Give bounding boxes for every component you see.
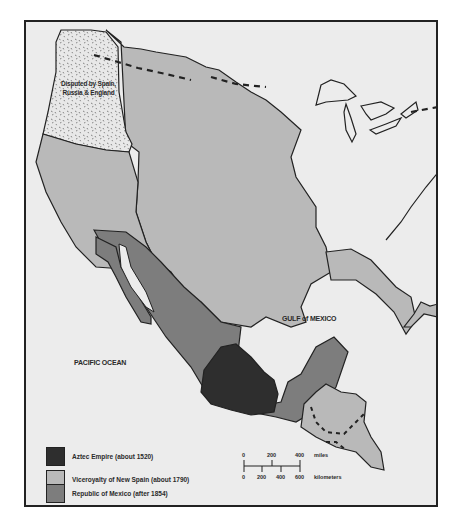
scale-km-600: 600 [295, 474, 304, 480]
scale-miles-unit: miles [314, 452, 328, 458]
legend-item-aztec: Aztec Empire (about 1520) [46, 447, 153, 466]
legend-item-mexico: Republic of Mexico (after 1854) [46, 484, 168, 503]
disputed-label-line1: Disputed by Spain, [61, 79, 116, 88]
legend-label-new-spain: Viceroyalty of New Spain (about 1790) [72, 476, 189, 483]
legend-label-aztec: Aztec Empire (about 1520) [72, 453, 153, 460]
lake-huron [361, 102, 394, 120]
scale-km-200: 200 [257, 474, 266, 480]
historical-map: Disputed by Spain, Russia & England GULF… [24, 20, 438, 507]
lake-superior [316, 80, 356, 105]
scale-km-unit: kilometers [314, 474, 342, 480]
pacific-ocean-label: PACIFIC OCEAN [74, 359, 126, 366]
gulf-of-mexico-label: GULF of MEXICO [282, 315, 336, 322]
scale-km-0: 0 [242, 474, 245, 480]
lake-ontario [401, 102, 418, 118]
disputed-label: Disputed by Spain, Russia & England [61, 79, 116, 97]
florida [326, 249, 416, 334]
scale-miles-400: 400 [295, 452, 304, 458]
scale-bar [244, 460, 300, 472]
scale-miles-200: 200 [267, 452, 276, 458]
lake-michigan [344, 104, 356, 142]
legend-swatch-aztec [46, 447, 65, 466]
lake-erie [370, 118, 401, 134]
disputed-label-line2: Russia & England [61, 88, 116, 97]
legend-swatch-mexico [46, 484, 65, 503]
legend-label-mexico: Republic of Mexico (after 1854) [72, 490, 168, 497]
east-coast [386, 170, 438, 240]
scale-km-400: 400 [276, 474, 285, 480]
scale-miles-0: 0 [242, 452, 245, 458]
